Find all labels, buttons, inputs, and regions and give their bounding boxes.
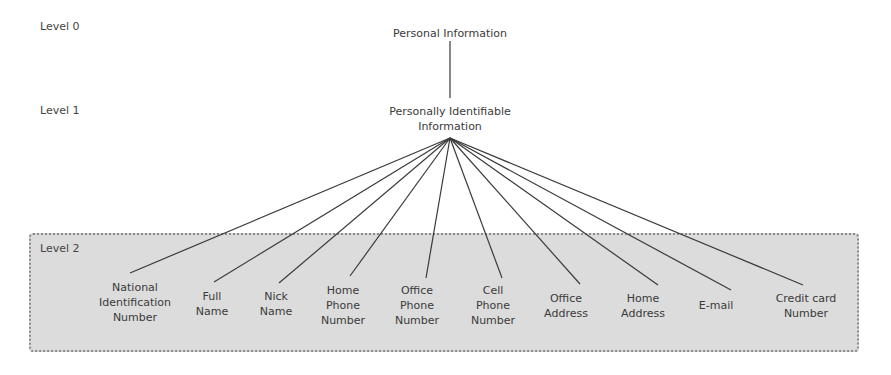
node-personal-information: Personal Information (370, 26, 530, 41)
leaf-national-identification-number: National Identification Number (99, 280, 171, 325)
node-personally-identifiable-information: Personally Identifiable Information (360, 104, 540, 134)
leaf-line: Number (395, 313, 439, 328)
leaf-line: Phone (395, 298, 439, 313)
leaf-line: Number (471, 313, 515, 328)
leaf-line: Number (321, 313, 365, 328)
leaf-credit-card-number: Credit card Number (776, 291, 837, 321)
leaf-line: Number (99, 310, 171, 325)
pii-line-1: Personally Identifiable (360, 104, 540, 119)
leaf-line: Office (395, 283, 439, 298)
level-1-label: Level 1 (40, 104, 80, 117)
leaf-line: National (99, 280, 171, 295)
leaf-nick-name: Nick Name (260, 289, 292, 319)
leaf-line: Address (544, 306, 588, 321)
level-2-label: Level 2 (40, 242, 80, 255)
leaf-line: Name (196, 304, 228, 319)
leaf-line: E-mail (699, 298, 734, 313)
leaf-line: Identification (99, 295, 171, 310)
leaf-office-phone-number: Office Phone Number (395, 283, 439, 328)
leaf-line: Full (196, 289, 228, 304)
edges-pii-to-leaves (130, 138, 803, 290)
leaf-line: Phone (471, 298, 515, 313)
leaf-line: Home (621, 291, 665, 306)
leaf-e-mail: E-mail (699, 298, 734, 313)
leaf-line: Credit card (776, 291, 837, 306)
leaf-home-address: Home Address (621, 291, 665, 321)
leaf-home-phone-number: Home Phone Number (321, 283, 365, 328)
leaf-line: Nick (260, 289, 292, 304)
leaf-line: Phone (321, 298, 365, 313)
pii-line-2: Information (360, 119, 540, 134)
leaf-line: Name (260, 304, 292, 319)
level-0-label: Level 0 (40, 20, 80, 33)
leaf-line: Home (321, 283, 365, 298)
leaf-cell-phone-number: Cell Phone Number (471, 283, 515, 328)
leaf-full-name: Full Name (196, 289, 228, 319)
leaf-line: Cell (471, 283, 515, 298)
leaf-line: Address (621, 306, 665, 321)
leaf-line: Office (544, 291, 588, 306)
leaf-line: Number (776, 306, 837, 321)
leaf-office-address: Office Address (544, 291, 588, 321)
